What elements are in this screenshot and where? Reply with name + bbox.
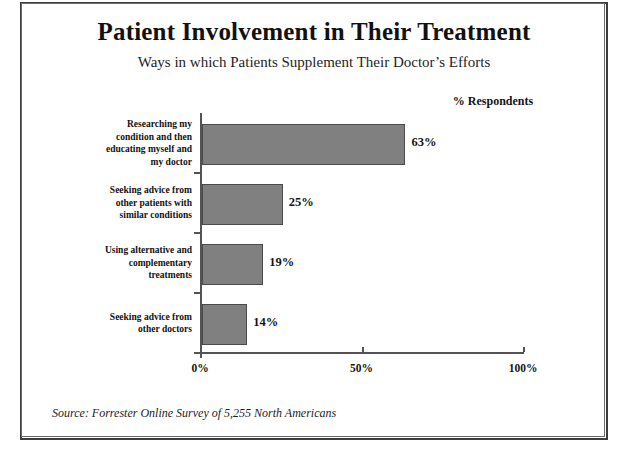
x-axis-tick [523, 347, 525, 352]
bar-value-label: 14% [253, 315, 278, 330]
bar [202, 124, 405, 165]
y-axis-tick [194, 292, 200, 294]
category-label: Researching mycondition and theneducatin… [74, 118, 200, 168]
x-axis-tick-label: 0% [170, 362, 230, 374]
y-axis-tick [194, 172, 200, 174]
category-label: Seeking advice fromother patients withsi… [74, 184, 200, 222]
x-axis-tick [362, 347, 364, 352]
category-label-line: other doctors [74, 323, 192, 336]
bar [202, 244, 263, 285]
category-label-line: educating myself and [74, 143, 192, 156]
category-label-line: treatments [74, 269, 192, 282]
category-label-line: complementary [74, 257, 192, 270]
category-label-line: Seeking advice from [74, 311, 192, 324]
category-label-line: my doctor [74, 156, 192, 169]
category-label: Seeking advice fromother doctors [74, 311, 200, 336]
y-axis-tick [194, 232, 200, 234]
category-label-line: condition and then [74, 131, 192, 144]
bar [202, 184, 283, 225]
bar-value-label: 25% [289, 195, 314, 210]
x-axis-line [200, 352, 524, 354]
category-label-line: Using alternative and [74, 244, 192, 257]
source-note: Source: Forrester Online Survey of 5,255… [52, 406, 336, 421]
x-axis-tick [200, 353, 202, 358]
bar-chart-plot: Researching mycondition and theneducatin… [0, 0, 625, 457]
bar-value-label: 19% [269, 255, 294, 270]
bar [202, 304, 247, 345]
category-label: Using alternative andcomplementarytreatm… [74, 244, 200, 282]
category-label-line: Seeking advice from [74, 184, 192, 197]
x-axis-tick-label: 50% [332, 362, 392, 374]
category-label-line: similar conditions [74, 209, 192, 222]
x-axis-tick-label: 100% [493, 362, 553, 374]
bar-value-label: 63% [411, 135, 436, 150]
chart-page: Patient Involvement in Their Treatment W… [0, 0, 625, 457]
category-label-line: other patients with [74, 197, 192, 210]
category-label-line: Researching my [74, 118, 192, 131]
